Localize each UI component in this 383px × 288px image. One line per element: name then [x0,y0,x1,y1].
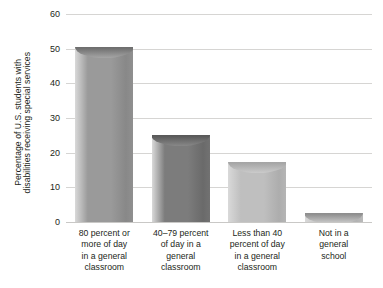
bar-body [152,135,210,222]
x-axis-category-labels: 80 percent ormore of dayin a generalclas… [66,228,372,288]
x-axis-label-line: in a general [219,251,296,262]
x-axis-label-line: of day in a [143,239,220,250]
y-axis-title-line-2: disabilities receiving special services [23,52,32,193]
x-axis-label: Less than 40percent of dayin a generalcl… [219,228,296,274]
y-tick-label-30: 30 [38,114,60,123]
bar[interactable] [305,213,363,222]
x-axis-label-line: 80 percent or [66,228,143,239]
x-axis-label-line: in a general [66,251,143,262]
y-tick-label-50: 50 [38,44,60,53]
bar-slot [228,14,286,222]
x-axis-label: Not in ageneralschool [296,228,373,262]
bar[interactable] [152,135,210,222]
bar-top-ellipse [305,213,363,222]
bar-slot [152,14,210,222]
x-axis-label-line: classroom [143,262,220,273]
bar-chart: Percentage of U.S. students with disabil… [0,0,383,288]
x-axis-label: 80 percent ormore of dayin a generalclas… [66,228,143,274]
y-tick-label-40: 40 [38,79,60,88]
x-axis-label-line: Not in a [296,228,373,239]
x-axis-baseline [66,222,372,223]
bar-series [66,14,372,222]
x-axis-label-line: general [296,239,373,250]
bar-body [75,47,133,222]
x-axis-label-line: classroom [66,262,143,273]
y-tick-label-60: 60 [38,10,60,19]
y-tick-label-10: 10 [38,183,60,192]
x-axis-label-line: classroom [219,262,296,273]
y-tick-label-0: 0 [38,218,60,227]
x-axis-label-line: more of day [66,239,143,250]
bar[interactable] [75,47,133,222]
y-axis-title: Percentage of U.S. students with disabil… [8,0,38,245]
x-axis-label-line: school [296,251,373,262]
x-axis-label-line: 40–79 percent [143,228,220,239]
plot-area [66,14,372,222]
y-tick-label-20: 20 [38,148,60,157]
bar-slot [75,14,133,222]
x-axis-label: 40–79 percentof day in ageneralclassroom [143,228,220,274]
bar-slot [305,14,363,222]
x-axis-label-line: general [143,251,220,262]
x-axis-label-line: Less than 40 [219,228,296,239]
x-axis-label-line: percent of day [219,239,296,250]
y-axis-tick-labels: 0102030405060 [38,14,62,222]
bar[interactable] [228,162,286,222]
